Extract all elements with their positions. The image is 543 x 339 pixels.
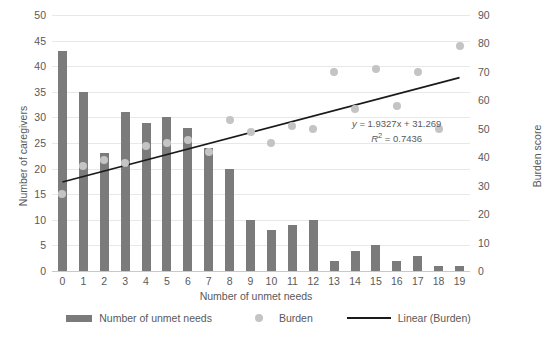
y-tick-right-20: 20 (478, 209, 504, 220)
legend-dot-swatch-icon (255, 314, 263, 322)
y-tick-left-15: 15 (22, 189, 46, 200)
scatter-dot (414, 68, 422, 76)
y-tick-left-10: 10 (22, 215, 46, 226)
legend-label: Burden (279, 312, 313, 324)
legend-bar-swatch-icon (66, 315, 92, 322)
y-tick-left-25: 25 (22, 138, 46, 149)
x-tick-12: 12 (303, 276, 324, 287)
y-tick-left-45: 45 (22, 36, 46, 47)
y-tick-right-90: 90 (478, 10, 504, 21)
r-squared-exponent: 2 (378, 131, 382, 140)
y-tick-right-10: 10 (478, 238, 504, 249)
y-tick-left-35: 35 (22, 87, 46, 98)
y-tick-right-0: 0 (478, 266, 504, 277)
x-tick-6: 6 (177, 276, 198, 287)
y-tick-left-50: 50 (22, 10, 46, 21)
scatter-dot (205, 148, 213, 156)
y-tick-right-40: 40 (478, 152, 504, 163)
scatter-dot (163, 139, 171, 147)
legend-item[interactable]: Number of unmet needs (66, 312, 212, 324)
x-tick-3: 3 (115, 276, 136, 287)
legend-label: Number of unmet needs (99, 312, 212, 324)
y-tick-right-30: 30 (478, 181, 504, 192)
x-tick-5: 5 (157, 276, 178, 287)
scatter-dot (372, 65, 380, 73)
regression-annotation: y = 1.9327x + 31.269 R2 = 0.7436 (352, 117, 441, 146)
legend-item[interactable]: Burden (246, 312, 313, 324)
x-tick-2: 2 (94, 276, 115, 287)
regression-equation: y = 1.9327x + 31.269 (352, 117, 441, 131)
x-axis-title: Number of unmet needs (46, 290, 466, 302)
r-squared-number: = 0.7436 (385, 133, 422, 144)
x-tick-11: 11 (282, 276, 303, 287)
y-axis-title-right: Burden score (531, 71, 543, 241)
x-tick-18: 18 (428, 276, 449, 287)
y-tick-right-50: 50 (478, 124, 504, 135)
y-tick-left-0: 0 (22, 266, 46, 277)
y-tick-left-20: 20 (22, 164, 46, 175)
x-tick-1: 1 (73, 276, 94, 287)
legend-line-swatch-icon (347, 317, 391, 319)
scatter-dot (226, 116, 234, 124)
x-tick-9: 9 (240, 276, 261, 287)
x-tick-15: 15 (366, 276, 387, 287)
scatter-dot (393, 102, 401, 110)
scatter-dot (247, 128, 255, 136)
x-tick-19: 19 (449, 276, 470, 287)
scatter-dot (142, 142, 150, 150)
x-tick-10: 10 (261, 276, 282, 287)
scatter-dot (351, 105, 359, 113)
x-tick-4: 4 (136, 276, 157, 287)
legend-item[interactable]: Linear (Burden) (347, 312, 471, 324)
x-tick-14: 14 (345, 276, 366, 287)
equation-lhs: y (352, 118, 357, 129)
y-tick-left-5: 5 (22, 240, 46, 251)
scatter-dot (184, 136, 192, 144)
x-tick-0: 0 (52, 276, 73, 287)
scatter-dot (330, 68, 338, 76)
legend-label: Linear (Burden) (398, 312, 471, 324)
y-tick-left-30: 30 (22, 112, 46, 123)
x-tick-17: 17 (407, 276, 428, 287)
x-tick-8: 8 (219, 276, 240, 287)
y-tick-right-70: 70 (478, 67, 504, 78)
x-tick-16: 16 (386, 276, 407, 287)
chart-legend: Number of unmet needsBurdenLinear (Burde… (0, 312, 537, 324)
scatter-dot (456, 42, 464, 50)
y-tick-left-40: 40 (22, 61, 46, 72)
y-tick-right-80: 80 (478, 38, 504, 49)
x-tick-7: 7 (198, 276, 219, 287)
r-squared-value: R2 = 0.7436 (352, 131, 441, 146)
scatter-dot (309, 125, 317, 133)
equation-rhs: = 1.9327x + 31.269 (359, 118, 441, 129)
x-tick-13: 13 (324, 276, 345, 287)
y-tick-right-60: 60 (478, 95, 504, 106)
x-axis-baseline (52, 271, 470, 272)
scatter-dot (121, 159, 129, 167)
